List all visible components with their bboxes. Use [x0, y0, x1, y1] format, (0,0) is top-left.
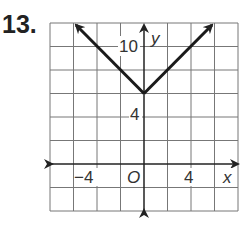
y-axis-label: y [150, 29, 161, 48]
y-tick-10: 10 [119, 37, 138, 56]
origin-label: O [127, 168, 140, 187]
y-tick-4: 4 [130, 105, 139, 124]
x-axis-label: x [222, 168, 232, 187]
x-tick-neg4: −4 [74, 168, 93, 187]
coordinate-graph: 10 4 y −4 O 4 x [0, 0, 252, 226]
x-tick-4: 4 [184, 168, 193, 187]
